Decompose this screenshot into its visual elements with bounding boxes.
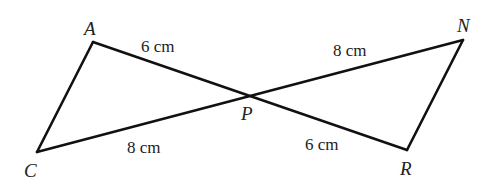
length-label-AP: 6 cm bbox=[141, 37, 175, 56]
length-label-PR: 6 cm bbox=[305, 135, 339, 154]
segment-NR bbox=[407, 40, 463, 150]
vertex-label-A: A bbox=[82, 18, 96, 39]
vertex-label-P: P bbox=[240, 103, 253, 124]
geometry-diagram: A C P N R 6 cm 8 cm 8 cm 6 cm bbox=[0, 0, 493, 185]
vertex-label-R: R bbox=[399, 158, 412, 179]
vertex-label-N: N bbox=[456, 15, 471, 36]
vertex-label-C: C bbox=[24, 160, 37, 181]
length-label-CP: 8 cm bbox=[127, 138, 161, 157]
segment-CN bbox=[37, 40, 463, 152]
segment-AC bbox=[37, 42, 93, 152]
length-label-PN: 8 cm bbox=[333, 41, 367, 60]
